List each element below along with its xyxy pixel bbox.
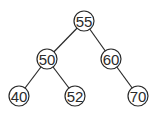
tree-node-55: 55 [74, 11, 94, 31]
node-label: 52 [67, 88, 84, 105]
node-label: 40 [11, 88, 28, 105]
tree-nodes: 555060405270 [9, 11, 148, 106]
tree-node-50: 50 [37, 49, 57, 69]
tree-node-52: 52 [65, 86, 85, 106]
node-label: 50 [39, 51, 56, 68]
node-label: 70 [130, 88, 147, 105]
tree-node-40: 40 [9, 86, 29, 106]
tree-node-70: 70 [128, 86, 148, 106]
binary-tree-diagram: 555060405270 [0, 0, 154, 115]
node-label: 60 [103, 51, 120, 68]
tree-node-60: 60 [101, 49, 121, 69]
node-label: 55 [76, 13, 93, 30]
